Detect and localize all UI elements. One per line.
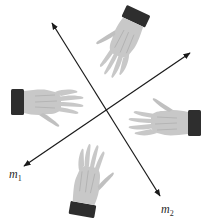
reflection-diagram bbox=[0, 0, 202, 223]
hand-right bbox=[129, 98, 201, 136]
hand-bottom bbox=[69, 142, 119, 220]
label-m1: m1 bbox=[9, 168, 22, 183]
label-m1-subscript: 1 bbox=[18, 174, 22, 183]
hand-left bbox=[11, 89, 83, 127]
label-m2: m2 bbox=[161, 203, 174, 218]
label-m1-letter: m bbox=[9, 167, 18, 181]
label-m2-letter: m bbox=[161, 202, 170, 216]
label-m2-subscript: 2 bbox=[170, 209, 174, 218]
hand-top bbox=[86, 0, 151, 81]
